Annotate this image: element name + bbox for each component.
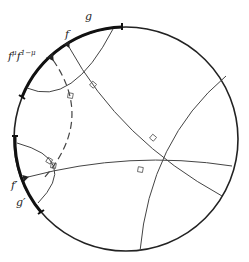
geodesic-lower-left [17, 143, 55, 203]
geodesic-f-prime [28, 160, 232, 177]
right-angle-marker [150, 134, 157, 141]
geodesic-dashed [44, 60, 72, 178]
hyperbolic-disk-diagram [0, 0, 249, 262]
label-f-mu-exp-2: 1−μ [21, 49, 36, 57]
label-f-prime: f′ [11, 180, 18, 191]
label-g: g [85, 11, 92, 22]
right-angle-marker [68, 93, 74, 99]
geodesic-f [69, 47, 222, 196]
right-angle-marker [138, 167, 144, 173]
label-g-prime: g′ [16, 197, 26, 208]
label-f-mu-f-1-mu: fμf1−μ [8, 48, 36, 62]
label-f: f [65, 29, 69, 40]
geodesic-upper-left [27, 29, 113, 92]
segment-g [22, 27, 122, 97]
